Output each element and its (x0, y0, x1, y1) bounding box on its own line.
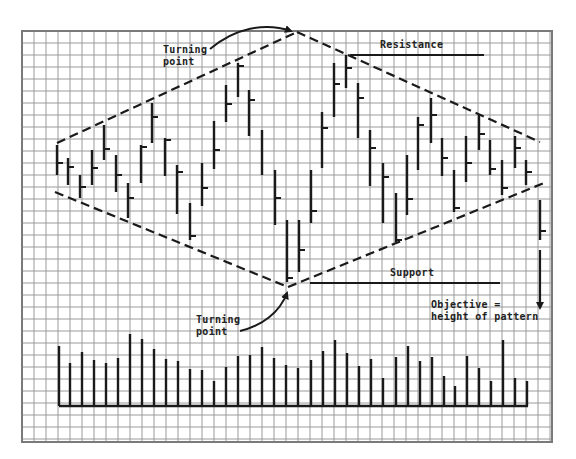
objective-label-2: height of pattern (431, 311, 538, 322)
support-label: Support (390, 267, 434, 278)
resistance-label: Resistance (380, 39, 443, 50)
turning-point-top-label: Turning (163, 44, 207, 55)
turning-point-bottom-label: Turning (196, 314, 240, 325)
turning-point-bottom-label-2: point (196, 326, 228, 337)
objective-label: Objective = (431, 299, 501, 310)
diamond-pattern-chart: Turning point Resistance Support Turning… (0, 0, 576, 459)
turning-point-top-label-2: point (163, 56, 195, 67)
